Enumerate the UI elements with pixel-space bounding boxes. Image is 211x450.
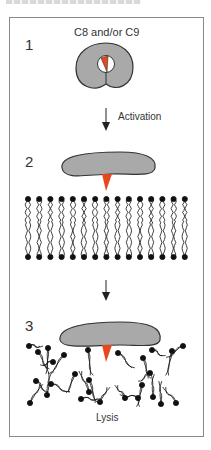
step-number-3: 3 <box>25 317 33 334</box>
c8-c9-label: C8 and/or C9 <box>74 26 139 38</box>
membrane-attack-diagram <box>0 0 211 450</box>
step-number-2: 2 <box>25 153 33 170</box>
step-number-1: 1 <box>25 36 33 53</box>
intact-lipid-bilayer <box>25 196 187 259</box>
activated-protein <box>62 152 155 191</box>
lysis-arrow <box>102 280 110 301</box>
lysis-label: Lysis <box>96 412 118 423</box>
activation-label: Activation <box>118 111 161 122</box>
activation-arrow <box>102 108 110 131</box>
c8-c9-ring-protein <box>76 43 133 88</box>
